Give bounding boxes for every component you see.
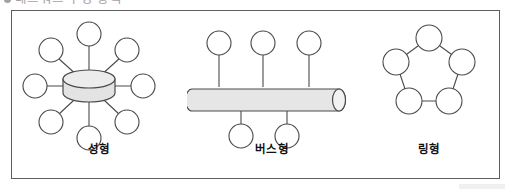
star-hub-device: [63, 70, 115, 102]
panel-bus-topology: 버스형: [187, 11, 357, 178]
star-node: [23, 74, 47, 98]
ring-node: [449, 49, 475, 75]
star-node: [115, 38, 139, 62]
panel-star-topology: 성형: [12, 11, 187, 178]
page-heading-text: 네트워크 구성 방식: [15, 0, 122, 6]
bus-node: [207, 31, 231, 55]
topology-figure-box: 성형: [11, 10, 500, 179]
ring-node: [416, 25, 442, 51]
bus-node: [297, 31, 321, 55]
star-node: [39, 38, 63, 62]
ring-node: [396, 88, 422, 114]
scan-artifact: [459, 184, 505, 189]
caption-star: 성형: [12, 142, 187, 156]
caption-ring: 링형: [357, 142, 501, 156]
star-node: [115, 110, 139, 134]
star-node: [131, 74, 155, 98]
bus-node: [251, 31, 275, 55]
bus-backbone-device: [187, 89, 346, 111]
star-node: [77, 22, 101, 46]
star-node: [39, 110, 63, 134]
page-heading: 네트워크 구성 방식: [4, 0, 304, 7]
panel-ring-topology: 링형: [357, 11, 501, 178]
ring-node: [436, 88, 462, 114]
bullet-icon: [4, 0, 11, 3]
ring-node: [383, 49, 409, 75]
caption-bus: 버스형: [187, 142, 357, 156]
